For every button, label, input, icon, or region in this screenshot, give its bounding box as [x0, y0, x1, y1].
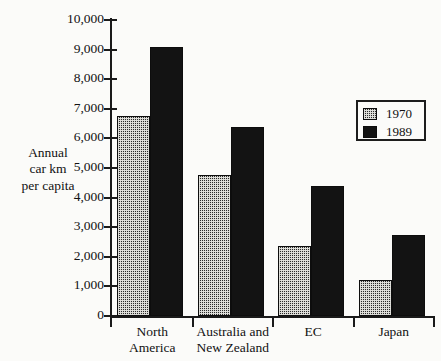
category-label: NorthAmerica [112, 324, 193, 356]
legend-label-1970: 1970 [386, 107, 412, 120]
bars-layer [0, 0, 441, 361]
category-label-line: America [112, 340, 193, 356]
category-label: Australia andNew Zealand [193, 324, 274, 356]
bar-chart: 10,0009,0008,0007,0006,0005,0004,0003,00… [0, 0, 441, 361]
legend-swatch-solid-icon [363, 126, 377, 138]
legend-label-1989: 1989 [386, 125, 412, 138]
legend-swatch-hatch-icon [363, 108, 377, 120]
bar-1970-australia-and-new-zealand [198, 175, 231, 316]
legend: 1970 1989 [356, 100, 426, 141]
category-label: Japan [354, 324, 435, 340]
bar-1989-north-america [150, 47, 183, 316]
legend-item-1989: 1989 [363, 124, 412, 139]
bar-1970-north-america [117, 116, 150, 316]
legend-item-1970: 1970 [363, 106, 412, 121]
bar-1970-japan [359, 280, 392, 316]
bar-1989-australia-and-new-zealand [231, 127, 264, 316]
bar-1989-ec [311, 186, 344, 316]
bar-1989-japan [392, 235, 425, 316]
category-label-line: Australia and [193, 324, 274, 340]
category-label: EC [273, 324, 354, 340]
category-label-line: North [112, 324, 193, 340]
category-label-line: EC [273, 324, 354, 340]
category-label-line: New Zealand [193, 340, 274, 356]
category-label-line: Japan [354, 324, 435, 340]
bar-1970-ec [278, 246, 311, 316]
